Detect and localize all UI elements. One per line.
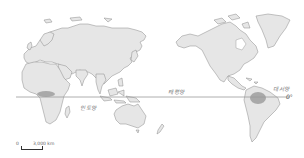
australia-landmass — [114, 104, 146, 128]
caribbean-islands — [246, 78, 258, 84]
southeast-asia-landmass — [96, 74, 106, 94]
world-map — [0, 0, 304, 158]
arctic-islands — [44, 17, 112, 23]
rainforest-amazon — [250, 92, 266, 104]
rainforest-africa — [37, 91, 55, 97]
scale-distance-label: 3,000 km — [33, 141, 54, 146]
label-indian-ocean: 인도양 — [80, 104, 97, 112]
new-zealand-landmass — [157, 124, 164, 134]
india-landmass — [76, 70, 88, 86]
central-america-landmass — [228, 76, 246, 90]
greenland-landmass — [256, 14, 290, 48]
scale-line — [21, 149, 43, 150]
label-pacific-ocean: 태평양 — [168, 88, 185, 96]
tasmania-landmass — [136, 130, 139, 133]
scale-bar: 0 3,000 km — [16, 141, 52, 153]
scale-tick-right — [42, 146, 43, 150]
madagascar-landmass — [65, 106, 70, 118]
label-atlantic-ocean: 대서양 — [273, 85, 290, 93]
scale-start-label: 0 — [16, 141, 19, 146]
north-america-landmass — [176, 22, 258, 82]
label-equator: 0° — [286, 93, 293, 100]
